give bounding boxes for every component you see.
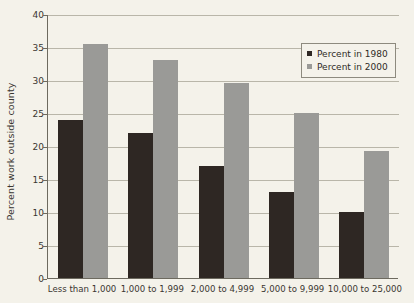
y-tick-mark (43, 15, 47, 16)
y-tick-mark (43, 147, 47, 148)
bar (83, 44, 108, 278)
y-tick-label: 0 (22, 274, 44, 284)
y-tick-mark (43, 81, 47, 82)
chart-legend: Percent in 1980 Percent in 2000 (301, 43, 396, 78)
y-tick-label: 40 (22, 10, 44, 20)
bar (199, 166, 224, 278)
bar (269, 192, 294, 278)
y-tick-mark (43, 180, 47, 181)
y-tick-label: 20 (22, 142, 44, 152)
legend-swatch-2000-icon (307, 64, 312, 69)
legend-label-1980: Percent in 1980 (317, 49, 388, 59)
y-tick-label: 15 (22, 175, 44, 185)
bar (153, 60, 178, 278)
x-axis-category-label: 5,000 to 9,999 (258, 284, 328, 294)
bar (339, 212, 364, 278)
bar (224, 83, 249, 278)
y-tick-label: 35 (22, 43, 44, 53)
y-tick-mark (43, 114, 47, 115)
legend-swatch-1980-icon (307, 51, 312, 56)
legend-label-2000: Percent in 2000 (317, 62, 388, 72)
bar (294, 113, 319, 278)
gridline (48, 15, 399, 16)
x-axis-category-label: Less than 1,000 (47, 284, 117, 294)
y-tick-mark (43, 279, 47, 280)
bar (128, 133, 153, 278)
y-tick-label: 5 (22, 241, 44, 251)
y-tick-mark (43, 48, 47, 49)
y-tick-label: 25 (22, 109, 44, 119)
y-tick-mark (43, 246, 47, 247)
y-tick-label: 10 (22, 208, 44, 218)
legend-item-1980: Percent in 1980 (307, 47, 388, 60)
y-tick-label: 30 (22, 76, 44, 86)
x-axis-category-label: 1,000 to 1,999 (117, 284, 187, 294)
x-axis-category-label: 2,000 to 4,999 (187, 284, 257, 294)
y-axis-title: Percent work outside county (2, 0, 18, 303)
bar (364, 151, 389, 278)
bar-chart: Percent work outside county 051015202530… (0, 0, 414, 303)
bar (58, 120, 83, 278)
y-tick-mark (43, 213, 47, 214)
legend-item-2000: Percent in 2000 (307, 60, 388, 73)
x-axis-category-label: 10,000 to 25,000 (328, 284, 398, 294)
